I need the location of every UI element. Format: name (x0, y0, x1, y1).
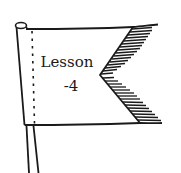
stitch-line (32, 31, 35, 124)
pole-lower-right (34, 126, 39, 173)
flag-label-line2: -4 (64, 79, 79, 94)
flag-label-line1: Lesson (41, 55, 94, 70)
pole-upper (17, 27, 25, 125)
flag-illustration: Lesson -4 (0, 0, 181, 173)
flag-drawing (0, 0, 181, 173)
pole-lower-left (27, 126, 30, 173)
notch-hatching (101, 28, 161, 121)
flag-bottom-edge (25, 123, 163, 125)
